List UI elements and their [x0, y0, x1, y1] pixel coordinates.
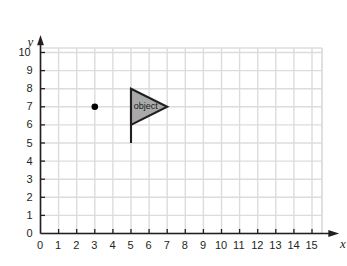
x-axis-label: x — [340, 237, 346, 250]
y-tick-label: 2 — [27, 192, 33, 203]
x-tick-label: 8 — [182, 240, 188, 251]
y-tick-label: 3 — [27, 174, 33, 185]
y-tick-label: 8 — [27, 83, 33, 94]
x-tick-label: 5 — [128, 240, 134, 251]
y-tick-label: 4 — [27, 156, 33, 167]
x-tick-label: 6 — [146, 240, 152, 251]
coordinate-plane-figure: object0123456789101112131415012345678910… — [0, 0, 347, 266]
x-tick-label: 2 — [73, 240, 79, 251]
x-tick-label: 9 — [200, 240, 206, 251]
shape-label-object: object — [134, 102, 158, 111]
x-tick-label: 0 — [37, 240, 43, 251]
x-tick-label: 13 — [269, 240, 281, 251]
x-tick-label: 11 — [233, 240, 244, 251]
x-tick-label: 15 — [306, 240, 318, 251]
y-tick-label: 5 — [27, 138, 33, 149]
y-tick-label: 9 — [27, 65, 33, 76]
x-tick-label: 12 — [251, 240, 263, 251]
x-tick-label: 14 — [287, 240, 299, 251]
plot-svg — [0, 0, 347, 266]
y-tick-label: 7 — [27, 101, 33, 112]
x-tick-label: 7 — [164, 240, 170, 251]
center-of-rotation-point — [92, 104, 99, 111]
x-tick-label: 4 — [109, 240, 115, 251]
y-tick-label: 6 — [27, 119, 33, 130]
y-axis-label: y — [28, 35, 34, 48]
y-tick-label: 1 — [27, 210, 33, 221]
x-tick-label: 1 — [55, 240, 61, 251]
grid-lines — [41, 48, 322, 234]
y-tick-label: 0 — [27, 228, 33, 239]
x-tick-label: 10 — [215, 240, 227, 251]
x-tick-label: 3 — [91, 240, 97, 251]
